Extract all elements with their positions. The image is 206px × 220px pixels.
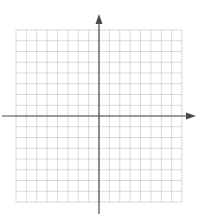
- y-axis-arrow-icon: [96, 14, 103, 24]
- x-axis-arrow-icon: [186, 113, 196, 120]
- axes: [2, 14, 196, 214]
- coordinate-plane: [0, 0, 206, 220]
